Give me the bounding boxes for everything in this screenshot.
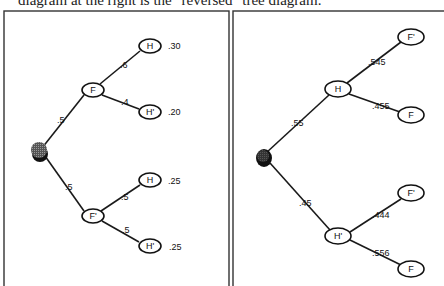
node-F-prime-upper: F' xyxy=(398,29,424,45)
svg-text:H': H' xyxy=(146,107,154,117)
svg-text:F': F' xyxy=(89,211,96,221)
joint-prob-FprimeH: .25 xyxy=(168,176,181,186)
svg-text:H: H xyxy=(147,175,154,185)
joint-prob-FHprime: .20 xyxy=(168,107,181,117)
svg-text:F': F' xyxy=(407,188,414,198)
prob-H-prime-F-prime: .444 xyxy=(372,210,390,220)
svg-text:H': H' xyxy=(146,241,154,251)
joint-prob-FprimeHprime: .25 xyxy=(169,242,182,252)
svg-text:F: F xyxy=(408,110,414,120)
node-H-upper: H xyxy=(139,39,161,53)
prob-F-H: .6 xyxy=(120,60,128,70)
prob-F-prime-H-prime: .5 xyxy=(122,225,130,235)
left-tree: F F' H H' H H' .5 .5 .6 .4 .5 .5 .30 xyxy=(31,39,182,253)
prob-root-F-prime: .5 xyxy=(65,182,73,192)
svg-text:F: F xyxy=(408,264,414,274)
node-H: H xyxy=(325,81,351,97)
svg-text:H: H xyxy=(335,84,342,94)
prob-root-H: .55 xyxy=(291,118,304,128)
node-H-prime: H' xyxy=(325,228,351,244)
prob-F-H-prime: .4 xyxy=(121,97,129,107)
prob-H-F: .455 xyxy=(372,101,390,111)
node-F-lower: F xyxy=(398,261,424,277)
tree-diagrams: F F' H H' H H' .5 .5 .6 .4 .5 .5 .30 xyxy=(0,0,444,286)
node-H-prime-lower: H' xyxy=(139,239,161,253)
svg-text:H: H xyxy=(147,41,154,51)
node-F-upper: F xyxy=(398,107,424,123)
right-root-node xyxy=(256,149,272,167)
svg-text:F': F' xyxy=(407,32,414,42)
svg-text:F: F xyxy=(90,85,96,95)
svg-text:H': H' xyxy=(334,231,342,241)
joint-prob-FH: .30 xyxy=(168,41,181,51)
node-H-lower: H xyxy=(139,173,161,187)
prob-H-prime-F: .556 xyxy=(372,248,390,258)
left-root-node xyxy=(31,142,48,162)
prob-H-F-prime: .545 xyxy=(368,57,386,67)
node-F: F xyxy=(82,83,104,97)
node-F-prime: F' xyxy=(82,209,104,223)
prob-root-F: .5 xyxy=(57,115,65,125)
node-F-prime-lower: F' xyxy=(398,185,424,201)
prob-F-prime-H: .5 xyxy=(121,192,129,202)
node-H-prime-upper: H' xyxy=(139,105,161,119)
prob-root-H-prime: .45 xyxy=(299,198,312,208)
right-tree: H H' F' F F' F .55 .45 .545 .455 .444 .5… xyxy=(256,29,424,277)
